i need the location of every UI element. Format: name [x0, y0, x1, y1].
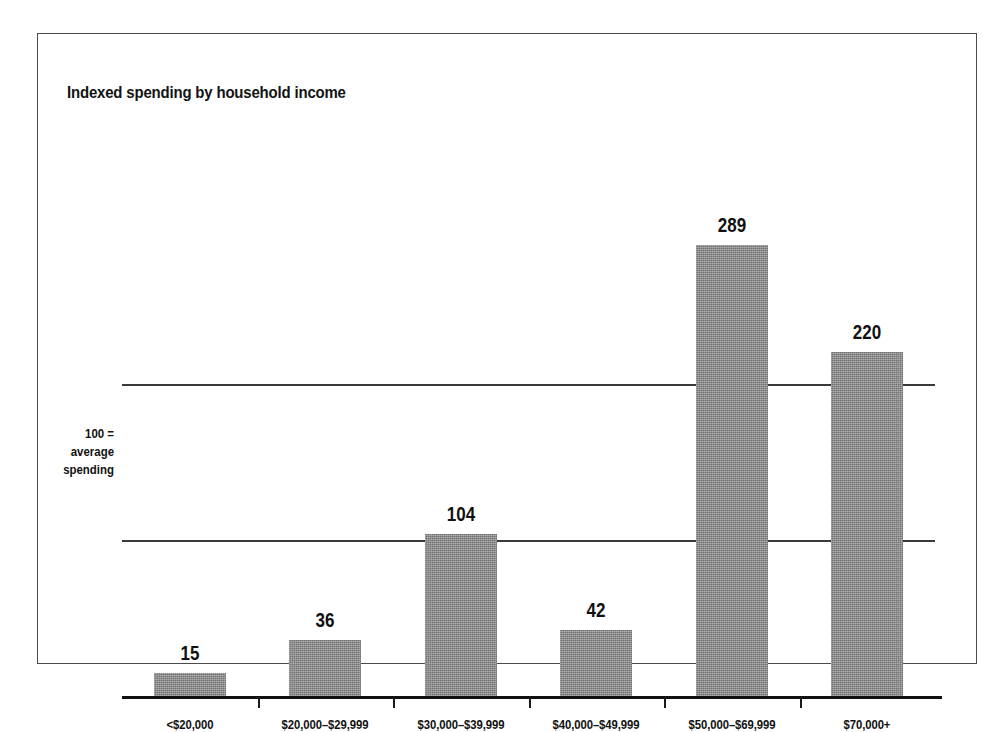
x-axis-tick	[664, 697, 666, 708]
gridline-100	[122, 540, 935, 542]
bar	[425, 534, 497, 696]
x-axis-tick	[258, 697, 260, 708]
bar	[289, 640, 361, 696]
x-axis-tick	[529, 697, 531, 708]
category-label: $70,000+	[780, 717, 954, 732]
bar	[696, 245, 768, 696]
x-axis-baseline	[122, 696, 942, 699]
axis-annotation-line-3: spending	[26, 461, 114, 479]
y-axis-annotation: 100 = average spending	[26, 425, 114, 479]
gridline-200	[122, 384, 935, 386]
bar	[560, 630, 632, 696]
bar-value-label: 220	[816, 321, 918, 344]
x-axis-tick	[800, 697, 802, 708]
bar-value-label: 289	[681, 214, 783, 237]
axis-annotation-line-1: 100 =	[26, 425, 114, 443]
bar	[154, 673, 226, 696]
bar-value-label: 104	[410, 503, 512, 526]
plot-area: 15<$20,00036$20,000–$29,999104$30,000–$3…	[122, 95, 935, 601]
x-axis-tick	[393, 697, 395, 708]
bar-value-label: 36	[274, 609, 376, 632]
axis-annotation-line-2: average	[26, 443, 114, 461]
bar-value-label: 42	[545, 599, 647, 622]
bar-value-label: 15	[139, 642, 241, 665]
bar	[831, 352, 903, 696]
